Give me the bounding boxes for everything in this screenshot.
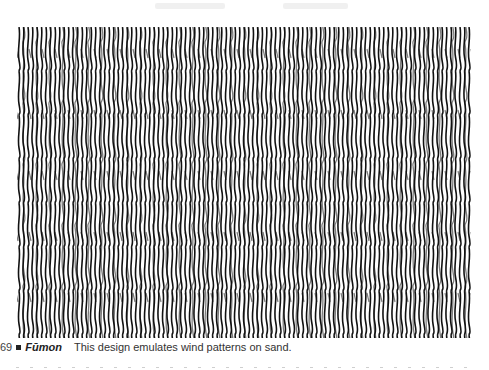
bleed-through-text-right bbox=[283, 3, 348, 9]
figure-number: 69 bbox=[0, 341, 12, 353]
dotted-divider bbox=[16, 367, 473, 368]
figure-caption: 69FūmonThis design emulates wind pattern… bbox=[0, 341, 292, 353]
wind-sand-pattern-figure bbox=[17, 27, 471, 338]
bleed-through-text-left bbox=[155, 3, 225, 9]
figure-title: Fūmon bbox=[25, 341, 62, 353]
square-bullet-icon bbox=[16, 345, 21, 350]
figure-description: This design emulates wind patterns on sa… bbox=[74, 341, 292, 353]
